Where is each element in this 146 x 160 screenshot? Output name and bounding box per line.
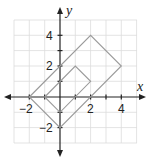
y-axis-up-arrow-icon (57, 7, 63, 14)
y-axis-label: y (64, 3, 73, 18)
x-axis-right-arrow-icon (139, 94, 146, 100)
x-axis-left-arrow-icon (4, 94, 11, 100)
grid (14, 20, 137, 143)
y-tick-label-neg2: −2 (39, 121, 53, 135)
x-tick-label-neg2: −2 (19, 102, 33, 116)
y-axis-down-arrow-icon (57, 150, 63, 157)
coordinate-plane: y x −2 2 4 4 2 −2 (0, 0, 146, 160)
y-tick-label-4: 4 (46, 29, 53, 43)
x-tick-label-2: 2 (87, 102, 94, 116)
y-tick-label-2: 2 (46, 59, 53, 73)
x-tick-label-4: 4 (118, 102, 125, 116)
x-axis-label: x (136, 79, 144, 94)
